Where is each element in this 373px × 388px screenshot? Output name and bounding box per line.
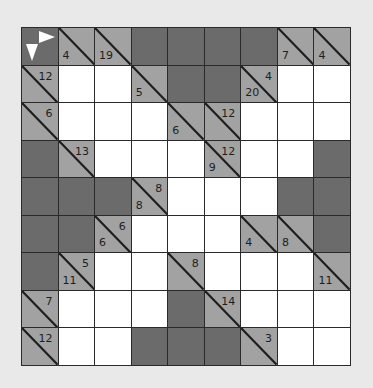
clue-cell: 12 xyxy=(22,66,58,103)
down-clue-sum: 6 xyxy=(99,237,106,248)
entry-cell[interactable] xyxy=(278,328,314,365)
entry-cell[interactable] xyxy=(95,66,131,103)
across-clue-sum: 12 xyxy=(39,71,53,82)
clue-cell: 6 xyxy=(22,103,58,140)
clue-cell: 14 xyxy=(205,291,241,328)
down-clue-sum: 11 xyxy=(63,275,77,286)
clue-cell: 88 xyxy=(132,178,168,215)
blocked-cell xyxy=(168,291,204,328)
entry-cell[interactable] xyxy=(168,141,204,178)
entry-cell[interactable] xyxy=(241,141,277,178)
blocked-cell xyxy=(205,28,241,65)
across-clue-sum: 12 xyxy=(221,146,235,157)
arrow-down-icon xyxy=(26,44,38,61)
blocked-cell xyxy=(314,178,350,215)
entry-cell[interactable] xyxy=(95,291,131,328)
across-clue-sum: 6 xyxy=(46,108,53,119)
clue-cell: 8 xyxy=(278,216,314,253)
blocked-cell xyxy=(22,141,58,178)
clue-cell: 7 xyxy=(278,28,314,65)
across-clue-sum: 5 xyxy=(82,258,89,269)
clue-cell: 204 xyxy=(241,66,277,103)
clue-cell: 115 xyxy=(59,253,95,290)
entry-cell[interactable] xyxy=(241,103,277,140)
entry-cell[interactable] xyxy=(241,253,277,290)
entry-cell[interactable] xyxy=(241,178,277,215)
blocked-cell xyxy=(59,178,95,215)
clue-cell: 4 xyxy=(314,28,350,65)
entry-cell[interactable] xyxy=(278,66,314,103)
entry-cell[interactable] xyxy=(132,103,168,140)
entry-cell[interactable] xyxy=(278,103,314,140)
down-clue-sum: 20 xyxy=(245,87,259,98)
down-clue-sum: 6 xyxy=(172,125,179,136)
entry-cell[interactable] xyxy=(132,216,168,253)
clue-cell: 912 xyxy=(205,141,241,178)
clue-cell: 12 xyxy=(205,103,241,140)
entry-cell[interactable] xyxy=(95,253,131,290)
down-clue-sum: 9 xyxy=(209,162,216,173)
blocked-cell xyxy=(314,216,350,253)
blocked-cell xyxy=(205,66,241,103)
across-clue-sum: 3 xyxy=(265,333,272,344)
blocked-cell xyxy=(168,328,204,365)
down-clue-sum: 8 xyxy=(136,200,143,211)
clue-cell: 11 xyxy=(314,253,350,290)
entry-cell[interactable] xyxy=(95,328,131,365)
entry-cell[interactable] xyxy=(59,291,95,328)
entry-cell[interactable] xyxy=(132,253,168,290)
blocked-cell xyxy=(168,28,204,65)
across-clue-sum: 12 xyxy=(221,108,235,119)
direction-legend-cell xyxy=(22,28,58,65)
entry-cell[interactable] xyxy=(314,291,350,328)
across-clue-sum: 14 xyxy=(221,296,235,307)
blocked-cell xyxy=(168,66,204,103)
entry-cell[interactable] xyxy=(314,66,350,103)
across-clue-sum: 8 xyxy=(192,258,199,269)
entry-cell[interactable] xyxy=(314,328,350,365)
arrow-right-icon xyxy=(39,31,55,43)
entry-cell[interactable] xyxy=(278,253,314,290)
down-clue-sum: 5 xyxy=(136,87,143,98)
clue-cell: 7 xyxy=(22,291,58,328)
entry-cell[interactable] xyxy=(59,328,95,365)
entry-cell[interactable] xyxy=(132,291,168,328)
clue-cell: 8 xyxy=(168,253,204,290)
clue-cell: 6 xyxy=(168,103,204,140)
clue-cell: 13 xyxy=(59,141,95,178)
entry-cell[interactable] xyxy=(168,216,204,253)
entry-cell[interactable] xyxy=(278,141,314,178)
down-clue-sum: 4 xyxy=(318,50,325,61)
entry-cell[interactable] xyxy=(205,253,241,290)
down-clue-sum: 11 xyxy=(318,275,332,286)
clue-cell: 3 xyxy=(241,328,277,365)
entry-cell[interactable] xyxy=(241,291,277,328)
blocked-cell xyxy=(132,28,168,65)
kakuro-board: 41974125204661213912886648115811714123 xyxy=(21,27,351,366)
entry-cell[interactable] xyxy=(168,178,204,215)
down-clue-sum: 7 xyxy=(282,50,289,61)
across-clue-sum: 13 xyxy=(75,146,89,157)
blocked-cell xyxy=(22,216,58,253)
clue-cell: 12 xyxy=(22,328,58,365)
blocked-cell xyxy=(132,328,168,365)
across-clue-sum: 7 xyxy=(46,296,53,307)
entry-cell[interactable] xyxy=(95,141,131,178)
blocked-cell xyxy=(22,178,58,215)
entry-cell[interactable] xyxy=(205,178,241,215)
across-clue-sum: 8 xyxy=(155,183,162,194)
entry-cell[interactable] xyxy=(278,291,314,328)
entry-cell[interactable] xyxy=(59,103,95,140)
clue-cell: 19 xyxy=(95,28,131,65)
clue-cell: 4 xyxy=(241,216,277,253)
down-clue-sum: 4 xyxy=(245,237,252,248)
blocked-cell xyxy=(95,178,131,215)
blocked-cell xyxy=(314,141,350,178)
entry-cell[interactable] xyxy=(314,103,350,140)
blocked-cell xyxy=(205,328,241,365)
entry-cell[interactable] xyxy=(59,66,95,103)
entry-cell[interactable] xyxy=(132,141,168,178)
entry-cell[interactable] xyxy=(95,103,131,140)
entry-cell[interactable] xyxy=(205,216,241,253)
blocked-cell xyxy=(59,216,95,253)
